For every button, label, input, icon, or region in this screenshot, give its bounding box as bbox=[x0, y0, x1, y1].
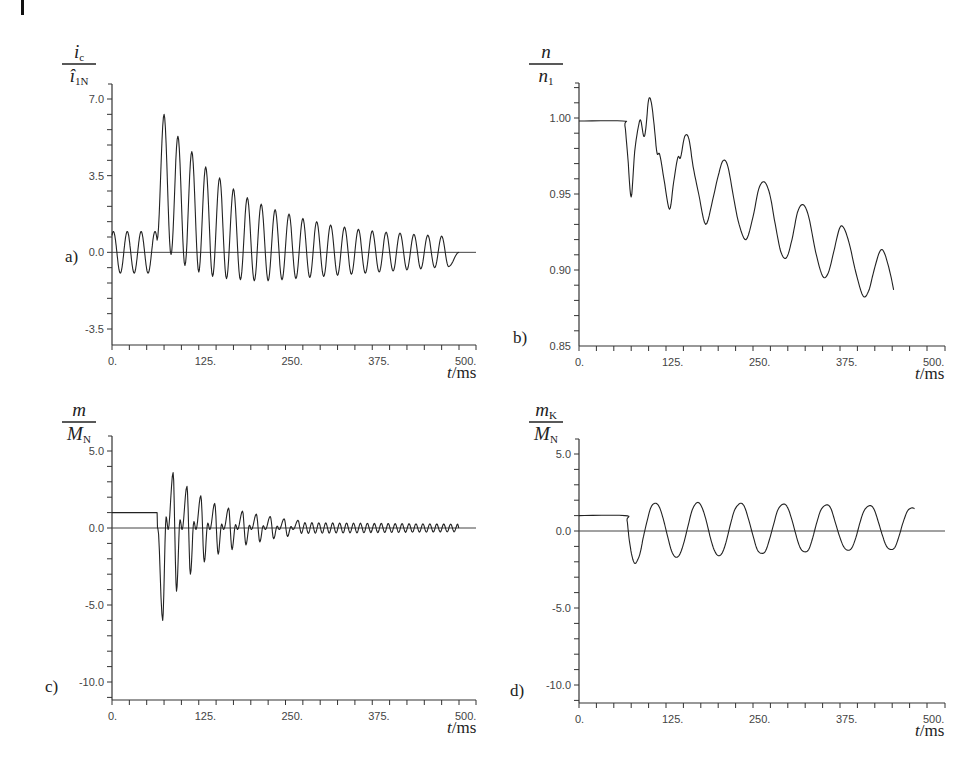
svg-text:ic: ic bbox=[74, 41, 84, 63]
x-tick-label: 375. bbox=[836, 713, 857, 725]
y-tick-label: 0.90 bbox=[550, 264, 571, 276]
x-axis-label: t/ms bbox=[915, 721, 944, 740]
x-axis-label: t/ms bbox=[447, 718, 476, 737]
y-tick-label: -5.0 bbox=[85, 599, 104, 611]
x-tick-label: 375. bbox=[368, 710, 389, 722]
y-tick-label: 0.85 bbox=[550, 340, 571, 352]
x-tick-label: 125. bbox=[195, 710, 216, 722]
x-tick-label: 250. bbox=[282, 355, 303, 367]
panel-label: d) bbox=[510, 681, 524, 700]
y-tick-label: 7.0 bbox=[89, 93, 104, 105]
y-tick-label: 0.0 bbox=[89, 522, 104, 534]
data-series-c bbox=[112, 473, 459, 621]
x-axis-label: t/ms bbox=[915, 364, 944, 383]
x-tick-label: 250. bbox=[749, 356, 770, 368]
y-tick-label: 5.0 bbox=[89, 445, 104, 457]
svg-text:n1: n1 bbox=[539, 65, 554, 87]
y-tick-label: -5.0 bbox=[552, 602, 571, 614]
data-series-a bbox=[112, 114, 459, 280]
plot-c: 0.125.250.375.500.t/ms5.00.0-5.0-10.0mMN… bbox=[45, 399, 476, 737]
y-tick-label: 3.5 bbox=[89, 170, 104, 182]
y-axis-label: icî1N bbox=[62, 41, 96, 87]
x-tick-label: 125. bbox=[195, 355, 216, 367]
chart-panel-d: 0.125.250.375.500.t/ms5.00.0-5.0-10.0mKM… bbox=[490, 390, 980, 776]
y-axis-label: mKMN bbox=[529, 399, 563, 445]
x-tick-label: 0. bbox=[108, 355, 117, 367]
x-tick-label: 250. bbox=[749, 713, 770, 725]
chart-panel-b: 0.125.250.375.500.t/ms1.000.950.900.85nn… bbox=[490, 0, 980, 390]
x-tick-label: 375. bbox=[368, 355, 389, 367]
plot-b: 0.125.250.375.500.t/ms1.000.950.900.85nn… bbox=[513, 41, 945, 383]
data-series-b bbox=[579, 98, 894, 297]
data-series-d bbox=[579, 502, 915, 563]
panel-label: b) bbox=[513, 328, 527, 347]
x-tick-label: 375. bbox=[836, 356, 857, 368]
svg-text:mK: mK bbox=[535, 399, 557, 421]
y-tick-label: 1.00 bbox=[550, 112, 571, 124]
y-axis-label: mMN bbox=[62, 399, 96, 445]
svg-text:MN: MN bbox=[533, 423, 558, 445]
chart-panel-a: 0.125.250.375.500.t/ms7.03.50.0-3.5icî1N… bbox=[0, 0, 490, 390]
x-axis-label: t/ms bbox=[447, 363, 476, 382]
y-tick-label: 0.0 bbox=[89, 246, 104, 258]
y-axis-label: nn1 bbox=[529, 41, 563, 87]
y-tick-label: 0.0 bbox=[556, 525, 571, 537]
plot-a: 0.125.250.375.500.t/ms7.03.50.0-3.5icî1N… bbox=[62, 41, 476, 382]
x-tick-label: 0. bbox=[108, 710, 117, 722]
x-tick-label: 125. bbox=[662, 713, 683, 725]
svg-text:MN: MN bbox=[66, 423, 91, 445]
panel-label: a) bbox=[65, 247, 78, 266]
x-tick-label: 250. bbox=[282, 710, 303, 722]
y-tick-label: 0.95 bbox=[550, 188, 571, 200]
x-tick-label: 0. bbox=[575, 713, 584, 725]
y-tick-label: -3.5 bbox=[85, 323, 104, 335]
y-tick-label: -10.0 bbox=[79, 676, 104, 688]
svg-text:n: n bbox=[541, 41, 551, 62]
x-tick-label: 0. bbox=[575, 356, 584, 368]
y-tick-label: 5.0 bbox=[556, 448, 571, 460]
chart-panel-c: 0.125.250.375.500.t/ms5.00.0-5.0-10.0mMN… bbox=[0, 390, 490, 776]
panel-label: c) bbox=[45, 677, 58, 696]
figure: 0.125.250.375.500.t/ms7.03.50.0-3.5icî1N… bbox=[0, 0, 980, 776]
svg-text:î1N: î1N bbox=[70, 65, 89, 87]
svg-text:m: m bbox=[72, 399, 86, 420]
y-tick-label: -10.0 bbox=[546, 679, 571, 691]
x-tick-label: 125. bbox=[662, 356, 683, 368]
plot-d: 0.125.250.375.500.t/ms5.00.0-5.0-10.0mKM… bbox=[510, 399, 945, 740]
